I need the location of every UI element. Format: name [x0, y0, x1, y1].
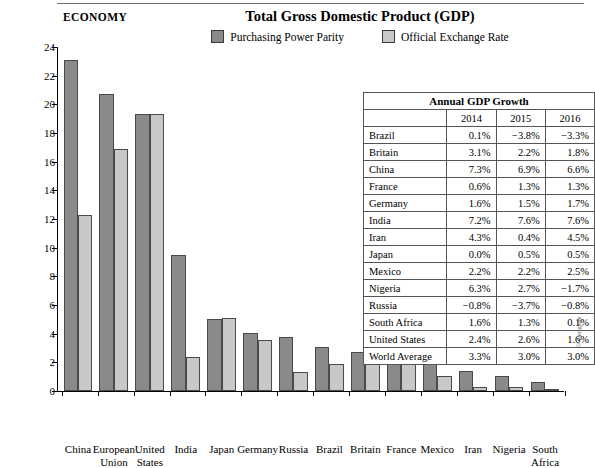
table-row: Mexico2.2%2.2%2.5% — [364, 263, 595, 280]
x-tick — [170, 391, 171, 396]
table-row: India7.2%7.6%7.6% — [364, 212, 595, 229]
bar-ppp — [315, 347, 329, 391]
y-tick-label-0: 0 — [25, 385, 55, 397]
y-tick-label-4: 4 — [25, 328, 55, 340]
bar-oer — [437, 376, 451, 391]
table-row: United States2.4%2.6%1.6% — [364, 331, 595, 348]
y-tick-label-2: 2 — [25, 356, 55, 368]
x-axis-label: South Africa — [518, 443, 572, 468]
table-row: World Average3.3%3.0%3.0% — [364, 348, 595, 365]
bar-oer — [78, 215, 92, 391]
bar-group — [61, 47, 97, 391]
table-cell-country: China — [364, 161, 447, 178]
table-cell-v2014: −0.8% — [447, 297, 496, 314]
bar-oer — [114, 149, 128, 391]
table-cell-country: United States — [364, 331, 447, 348]
table-cell-country: South Africa — [364, 314, 447, 331]
table-cell-v2016: 1.3% — [545, 178, 594, 195]
legend-swatch-oer — [382, 30, 395, 43]
x-tick — [457, 391, 458, 396]
table-row: France0.6%1.3%1.3% — [364, 178, 595, 195]
y-tick-label-14: 14 — [25, 184, 55, 196]
table-cell-v2016: 2.5% — [545, 263, 594, 280]
bar-oer — [545, 389, 559, 391]
x-tick — [529, 391, 530, 396]
table-cell-v2016: 0.5% — [545, 246, 594, 263]
bar-group — [169, 47, 205, 391]
table-col-header-country — [364, 110, 447, 127]
table-cell-v2015: 1.5% — [496, 195, 545, 212]
bar-ppp — [243, 333, 257, 391]
section-label: ECONOMY — [63, 11, 127, 23]
bar-group — [97, 47, 133, 391]
table-cell-v2014: 2.4% — [447, 331, 496, 348]
table-cell-v2016: 6.6% — [545, 161, 594, 178]
bar-oer — [186, 357, 200, 391]
table-row: South Africa1.6%1.3%0.1% — [364, 314, 595, 331]
table-cell-v2016: 1.6% — [545, 331, 594, 348]
chart-title: Total Gross Domestic Product (GDP) — [150, 8, 570, 25]
table-cell-country: Nigeria — [364, 280, 447, 297]
table-cell-v2015: −3.8% — [496, 127, 545, 144]
bar-ppp — [459, 371, 473, 391]
table-col-header-2015: 2015 — [496, 110, 545, 127]
table-cell-v2014: 2.2% — [447, 263, 496, 280]
table-cell-v2014: 0.1% — [447, 127, 496, 144]
bar-ppp — [99, 94, 113, 391]
table-col-header-2014: 2014 — [447, 110, 496, 127]
y-tick-label-8: 8 — [25, 270, 55, 282]
legend-label-oer: Official Exchange Rate — [401, 31, 509, 43]
bar-ppp — [64, 60, 78, 391]
legend-item-ppp: Purchasing Power Parity — [211, 30, 344, 43]
table-cell-country: World Average — [364, 348, 447, 365]
table-cell-country: France — [364, 178, 447, 195]
x-tick — [241, 391, 242, 396]
table-col-header-2016: 2016 — [545, 110, 594, 127]
bar-ppp — [495, 376, 509, 391]
bar-oer — [293, 372, 307, 391]
table-cell-v2016: 1.8% — [545, 144, 594, 161]
table-cell-country: Russia — [364, 297, 447, 314]
table-cell-v2016: 0.1% — [545, 314, 594, 331]
table-cell-v2014: 1.6% — [447, 195, 496, 212]
bar-oer — [222, 318, 236, 391]
table-cell-v2016: 1.7% — [545, 195, 594, 212]
table-cell-v2015: 7.6% — [496, 212, 545, 229]
table-caption: Annual GDP Growth — [364, 93, 595, 110]
bar-ppp — [135, 114, 149, 391]
x-tick — [205, 391, 206, 396]
table-cell-v2014: 6.3% — [447, 280, 496, 297]
table-cell-v2014: 1.6% — [447, 314, 496, 331]
y-tick-label-12: 12 — [25, 213, 55, 225]
legend-swatch-ppp — [211, 30, 224, 43]
header-divider — [57, 3, 584, 4]
y-tick-label-18: 18 — [25, 127, 55, 139]
table-body: Brazil0.1%−3.8%−3.3%Britain3.1%2.2%1.8%C… — [364, 127, 595, 365]
table-cell-v2015: 1.3% — [496, 314, 545, 331]
table-cell-v2015: 2.6% — [496, 331, 545, 348]
legend-item-oer: Official Exchange Rate — [382, 30, 509, 43]
table-row: China7.3%6.9%6.6% — [364, 161, 595, 178]
table-cell-v2016: 3.0% — [545, 348, 594, 365]
table-row: Brazil0.1%−3.8%−3.3% — [364, 127, 595, 144]
y-tick-label-24: 24 — [25, 41, 55, 53]
bar-oer — [473, 387, 487, 391]
y-tick-label-22: 22 — [25, 70, 55, 82]
y-tick-label-10: 10 — [25, 242, 55, 254]
table-cell-v2015: 2.2% — [496, 144, 545, 161]
bar-ppp — [171, 255, 185, 391]
table-cell-v2014: 4.3% — [447, 229, 496, 246]
bar-oer — [258, 340, 272, 391]
bar-group — [241, 47, 277, 391]
x-tick — [565, 391, 566, 396]
bar-ppp — [279, 337, 293, 391]
bar-group — [205, 47, 241, 391]
table-cell-v2015: 2.2% — [496, 263, 545, 280]
bar-ppp — [207, 319, 221, 391]
y-tick-label-20: 20 — [25, 98, 55, 110]
y-tick-label-16: 16 — [25, 156, 55, 168]
table-cell-v2016: 4.5% — [545, 229, 594, 246]
table-cell-country: India — [364, 212, 447, 229]
table-row: Russia−0.8%−3.7%−0.8% — [364, 297, 595, 314]
